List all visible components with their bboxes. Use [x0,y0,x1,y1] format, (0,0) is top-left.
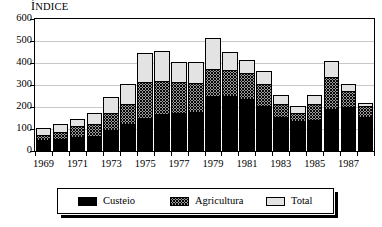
x-axis-tick-label: 1971 [67,158,88,169]
x-axis-tick-mark [374,152,375,156]
bar-series-group [35,19,374,151]
y-axis-title-rest: NDICE [35,1,68,12]
bar-segment-agricultura [273,104,289,118]
bar-segment-total [137,53,153,83]
plot-area [34,18,375,152]
x-axis-tick-mark [272,152,273,156]
bar-segment-total [171,62,187,83]
x-axis-tick-mark [35,152,36,156]
bar-segment-custeio [307,120,323,151]
bar-column [341,85,357,151]
legend-item-label: Agricultura [195,195,243,207]
bar-segment-agricultura [137,82,153,119]
bar-segment-total [188,62,204,84]
x-axis-tick-label: 1987 [338,158,359,169]
bar-segment-total [290,106,306,114]
bar-segment-custeio [324,109,340,151]
y-axis-tick-label: 400 [16,57,32,67]
x-axis-tick-label: 1983 [270,158,291,169]
bar-segment-total [70,119,86,127]
bar-column [137,54,153,151]
bar-segment-custeio [70,137,86,151]
bar-segment-total [324,61,340,79]
x-axis-tick-mark [103,152,104,156]
bar-column [70,120,86,151]
x-axis-tick-mark [120,152,121,156]
bar-segment-agricultura [103,113,119,132]
bar-column [290,107,306,151]
bar-segment-custeio [256,106,272,151]
x-axis-tick-label: 1973 [101,158,122,169]
bar-segment-total [154,51,170,82]
x-axis-tick-mark [154,152,155,156]
bar-segment-total [307,95,323,105]
crosshatch-swatch [170,197,189,206]
bar-segment-total [36,128,52,136]
bar-segment-agricultura [256,84,272,107]
legend-item[interactable]: Custeio [78,195,135,207]
x-axis-tick-mark [188,152,189,156]
bar-segment-agricultura [341,91,357,109]
bar-segment-agricultura [239,73,255,100]
x-axis-tick-label: 1985 [304,158,325,169]
bar-segment-custeio [53,139,69,151]
bar-segment-total [87,113,103,125]
bar-column [103,98,119,151]
x-axis-tick-mark [171,152,172,156]
y-axis-tick-label: 200 [16,101,32,111]
x-axis-tick-mark [52,152,53,156]
y-axis-tick-label: 300 [16,79,32,89]
bar-segment-agricultura [120,104,136,125]
bar-column [273,96,289,151]
y-axis-tick-label: 0 [27,145,32,155]
bar-segment-agricultura [307,104,323,122]
y-axis-title: ÍNDICE [31,0,68,14]
bar-segment-total [358,103,374,107]
bar-segment-custeio [137,118,153,151]
x-axis-tick-mark [340,152,341,156]
bar-segment-custeio [188,112,204,152]
bar-column [36,129,52,151]
bar-column [256,72,272,151]
bar-segment-custeio [222,96,238,151]
bar-column [120,85,136,151]
bar-column [171,63,187,151]
bar-segment-agricultura [205,69,221,98]
bar-segment-agricultura [154,81,170,115]
x-axis-tick-mark [289,152,290,156]
bar-column [307,96,323,151]
bar-segment-agricultura [290,113,306,123]
x-axis-tick-mark [205,152,206,156]
x-axis-tick-label: 1969 [33,158,54,169]
legend-item[interactable]: Total [266,195,312,207]
x-axis-tick-mark [255,152,256,156]
bar-segment-custeio [36,140,52,151]
legend-item[interactable]: Agricultura [170,195,243,207]
bar-segment-custeio [239,99,255,151]
bar-segment-agricultura [171,82,187,114]
bar-segment-agricultura [222,70,238,97]
bar-segment-total [53,124,69,134]
bar-column [53,125,69,151]
x-axis-tick-mark [323,152,324,156]
x-axis-tick-mark [69,152,70,156]
x-axis-tick-label: 1981 [236,158,257,169]
light-stipple-swatch [266,197,285,206]
bar-segment-total [239,60,255,74]
bar-segment-custeio [103,130,119,151]
x-axis-tick-mark [86,152,87,156]
x-axis-tick-label: 1979 [202,158,223,169]
bar-segment-custeio [273,117,289,151]
bar-segment-total [222,52,238,71]
bar-column [188,63,204,151]
chart-figure: ÍNDICE 0100200300400500600 1969197119731… [0,0,382,227]
bar-column [205,39,221,151]
x-axis-tick-mark [238,152,239,156]
bar-segment-custeio [120,124,136,151]
bar-segment-custeio [205,96,221,151]
bar-column [87,114,103,151]
bar-segment-total [120,84,136,105]
y-axis-tick-label: 100 [16,123,32,133]
bar-segment-total [273,95,289,105]
legend-item-label: Custeio [103,195,135,207]
